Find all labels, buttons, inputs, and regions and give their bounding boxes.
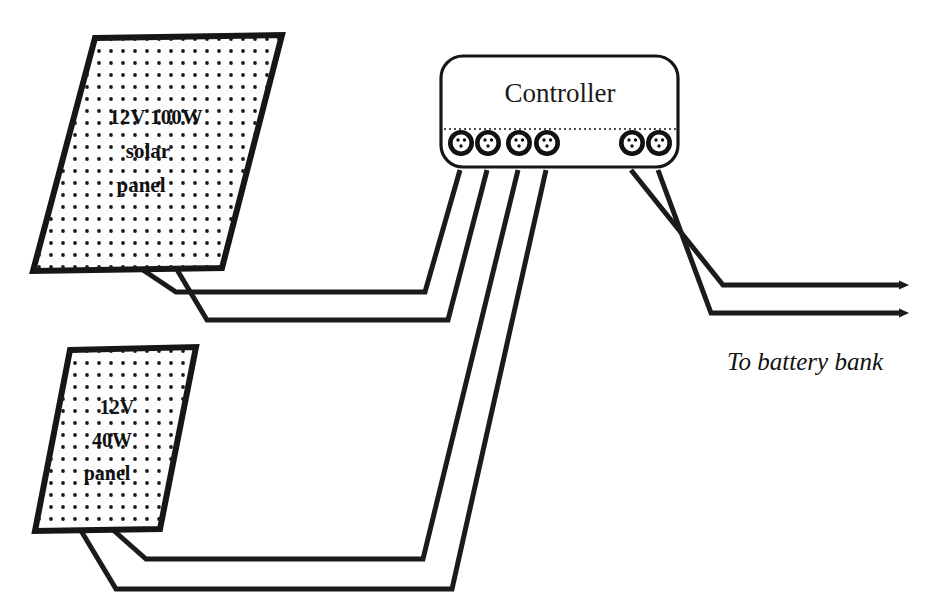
panel-40w-label-line2: 40W (92, 429, 132, 451)
controller[interactable]: Controller (441, 56, 678, 167)
controller-terminal-6[interactable] (646, 130, 672, 156)
controller-terminal-4[interactable] (534, 130, 560, 156)
panel-100w-label-line2: solar (126, 139, 170, 163)
wiring-diagram-svg: 12V 100W solar panel 12V 40W panel Contr… (0, 0, 938, 614)
controller-terminal-2[interactable] (475, 130, 501, 156)
controller-terminal-3[interactable] (506, 130, 532, 156)
controller-label: Controller (505, 78, 616, 108)
wire-battery-negative (658, 170, 899, 313)
controller-terminal-5[interactable] (619, 130, 645, 156)
panel-40w-label-line1: 12V (100, 396, 135, 418)
wire-battery-positive (631, 170, 899, 285)
panel-100w[interactable]: 12V 100W solar panel (25, 30, 295, 280)
panel-40w-label-line3: panel (84, 462, 131, 485)
controller-terminal-1[interactable] (448, 130, 474, 156)
panel-40w[interactable]: 12V 40W panel (28, 342, 208, 542)
diagram-canvas: 12V 100W solar panel 12V 40W panel Contr… (0, 0, 938, 614)
panel-100w-label-line1: 12V 100W (109, 105, 203, 129)
battery-bank-label: To battery bank (727, 348, 884, 375)
panel-100w-label-line3: panel (116, 173, 165, 197)
